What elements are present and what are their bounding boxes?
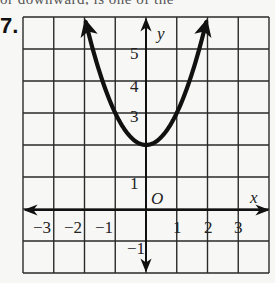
y-tick-4: 4 <box>130 77 139 96</box>
x-tick-neg-1: −1 <box>95 218 113 237</box>
x-tick-neg-2: −2 <box>64 218 82 237</box>
y-axis-label: y <box>155 24 165 43</box>
y-tick-5: 5 <box>130 44 139 63</box>
y-tick-neg-1: −1 <box>127 239 145 258</box>
x-tick-2: 2 <box>204 218 213 237</box>
x-tick-3: 3 <box>234 218 243 237</box>
origin-label: O <box>151 189 163 208</box>
y-tick-1: 1 <box>130 174 139 193</box>
x-tick-neg-3: −3 <box>33 218 51 237</box>
x-tick-1: 1 <box>173 218 182 237</box>
coordinate-graph: y x O 5 4 3 1 −1 −3 −2 −1 1 2 3 <box>0 0 275 283</box>
y-tick-3: 3 <box>130 107 139 126</box>
x-axis-label: x <box>249 188 258 207</box>
